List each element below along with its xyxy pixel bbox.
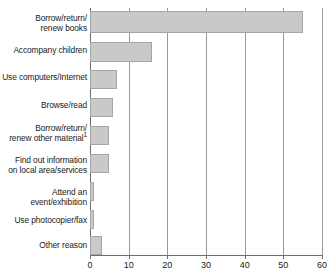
category-label-browse-read: Browse/read xyxy=(41,100,87,110)
bar-band-6 xyxy=(90,182,322,201)
category-label-find-out-information-local-area-services: Find out information on local area/servi… xyxy=(8,155,87,175)
category-label-accompany-children: Accompany children xyxy=(13,45,87,55)
bar-band-1 xyxy=(90,42,322,62)
x-tick-label-0: 0 xyxy=(87,260,92,271)
bar-use-photocopier-fax[interactable] xyxy=(90,210,94,229)
category-label-borrow-return-renew-other-material: Borrow/return/renew other material1 xyxy=(9,123,87,143)
bar-band-2 xyxy=(90,70,322,89)
category-label-borrow-return-renew-books: Borrow/return/ renew books xyxy=(35,13,87,33)
category-label-use-computers-internet: Use computers/Internet xyxy=(2,72,87,82)
bar-band-3 xyxy=(90,98,322,117)
category-label-other-reason: Other reason xyxy=(39,240,87,250)
tick-mark-50 xyxy=(283,255,284,259)
x-tick-label-10: 10 xyxy=(124,260,134,271)
tick-mark-30 xyxy=(206,255,207,259)
footnote-marker-1: 1 xyxy=(83,131,87,138)
bar-band-0 xyxy=(90,11,322,33)
bar-band-7 xyxy=(90,210,322,229)
bar-other-reason[interactable] xyxy=(90,236,102,255)
plot-area xyxy=(90,8,322,255)
tick-mark-0 xyxy=(90,255,91,259)
bar-chart: Borrow/return/ renew books Accompany chi… xyxy=(0,0,327,277)
x-tick-label-60: 60 xyxy=(317,260,327,271)
bar-attend-event-exhibition[interactable] xyxy=(90,182,94,201)
category-label-use-photocopier-fax: Use photocopier/fax xyxy=(14,215,87,225)
chart-title-cropped xyxy=(8,0,128,4)
x-tick-label-50: 50 xyxy=(278,260,288,271)
cat-4-line1: Borrow/return/ xyxy=(35,123,87,133)
tick-mark-40 xyxy=(245,255,246,259)
bar-accompany-children[interactable] xyxy=(90,42,152,62)
bar-borrow-return-renew-other-material[interactable] xyxy=(90,126,109,145)
bar-browse-read[interactable] xyxy=(90,98,113,117)
bar-find-out-information[interactable] xyxy=(90,154,109,173)
bar-band-5 xyxy=(90,154,322,173)
bar-band-4 xyxy=(90,126,322,145)
tick-mark-20 xyxy=(167,255,168,259)
category-label-attend-event-exhibition: Attend an event/exhibition xyxy=(30,187,87,207)
tick-mark-60 xyxy=(322,255,323,259)
bar-band-8 xyxy=(90,236,322,255)
gridline-60 xyxy=(322,8,323,255)
tick-mark-10 xyxy=(129,255,130,259)
bar-use-computers-internet[interactable] xyxy=(90,70,117,89)
x-tick-label-30: 30 xyxy=(201,260,211,271)
x-tick-label-40: 40 xyxy=(240,260,250,271)
bar-borrow-return-renew-books[interactable] xyxy=(90,11,303,33)
x-tick-label-20: 20 xyxy=(162,260,172,271)
x-axis-tick-row: 0 10 20 30 40 50 60 xyxy=(0,255,327,277)
cat-4-line2: renew other material xyxy=(9,133,83,143)
